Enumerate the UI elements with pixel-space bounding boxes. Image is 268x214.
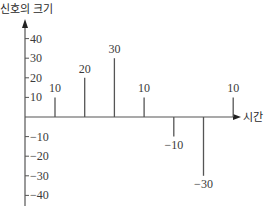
stem-value-label: 10 bbox=[138, 81, 150, 95]
y-tick-label: 30 bbox=[30, 51, 42, 65]
y-tick-label: −10 bbox=[30, 130, 49, 144]
y-tick-label: −40 bbox=[30, 188, 49, 202]
stem-value-label: −30 bbox=[194, 177, 213, 191]
y-axis-arrow-icon bbox=[22, 19, 28, 28]
x-axis-label: 시간 bbox=[243, 111, 263, 124]
stem-value-label: 10 bbox=[49, 81, 61, 95]
stem-value-label: 10 bbox=[227, 81, 239, 95]
stem-chart: 신호의 크기 시간 40302010−10−20−30−40 10203010−… bbox=[0, 0, 268, 214]
y-tick-label: 10 bbox=[30, 90, 42, 104]
y-axis-label: 신호의 크기 bbox=[0, 3, 54, 16]
y-tick-label: 40 bbox=[30, 32, 42, 46]
y-tick-label: −30 bbox=[30, 169, 49, 183]
x-axis-arrow-icon bbox=[233, 114, 241, 120]
stem-value-label: −10 bbox=[164, 138, 183, 152]
y-tick-label: −20 bbox=[30, 149, 49, 163]
y-tick-label: 20 bbox=[30, 71, 42, 85]
stem-value-label: 30 bbox=[108, 42, 120, 56]
stem-value-label: 20 bbox=[79, 62, 91, 76]
